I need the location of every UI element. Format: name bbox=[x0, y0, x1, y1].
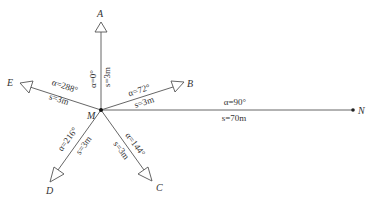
center-dot bbox=[99, 108, 103, 112]
point-e-label: E bbox=[6, 77, 13, 88]
point-c-label: C bbox=[156, 182, 163, 193]
ray-e-distance: s=3m bbox=[48, 91, 70, 107]
ray-d: D α=216° s=3m bbox=[45, 110, 101, 196]
arrow-d-icon bbox=[50, 167, 64, 182]
ray-c: C α=144° s=3m bbox=[101, 110, 163, 193]
arrow-c-icon bbox=[138, 167, 152, 181]
point-n-dot bbox=[351, 108, 355, 112]
ray-n-alpha: α=90° bbox=[224, 97, 247, 107]
ray-b-distance: s=3m bbox=[133, 94, 155, 110]
arrow-b-icon bbox=[171, 81, 184, 92]
center-label: M bbox=[86, 110, 96, 121]
center-point-m: M bbox=[86, 108, 103, 121]
radial-survey-diagram: A α=0° s=3m B α=72° s=3m N α=90° s=70m C… bbox=[0, 0, 369, 202]
ray-a-alpha: α=0° bbox=[88, 70, 98, 88]
point-n-label: N bbox=[357, 105, 366, 116]
ray-n-distance: s=70m bbox=[222, 113, 247, 123]
ray-e: E α=288° s=3m bbox=[6, 77, 101, 110]
ray-a-distance: s=3m bbox=[102, 67, 112, 87]
point-d-label: D bbox=[45, 185, 54, 196]
point-b-label: B bbox=[187, 78, 193, 89]
arrow-a-icon bbox=[95, 22, 107, 32]
ray-b: B α=72° s=3m bbox=[101, 78, 193, 110]
ray-a: A α=0° s=3m bbox=[88, 8, 112, 110]
ray-d-distance: s=3m bbox=[74, 134, 94, 156]
point-a-label: A bbox=[96, 8, 104, 19]
arrow-e-icon bbox=[20, 81, 33, 93]
